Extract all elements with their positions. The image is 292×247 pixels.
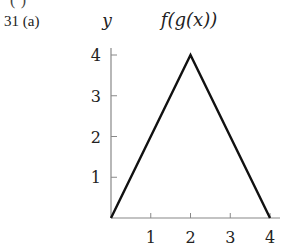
y-tick-label: 1 (91, 168, 101, 187)
y-axis-title: y (101, 10, 112, 30)
y-tick-label: 4 (91, 46, 101, 65)
chart-title: f(g(x)) (159, 9, 217, 30)
series-line (111, 55, 270, 218)
function-plot: 12341234yf(g(x)) (0, 0, 292, 247)
x-tick-label: 1 (146, 228, 156, 247)
y-tick-label: 2 (91, 128, 101, 147)
x-tick-label: 3 (225, 228, 235, 247)
y-tick-label: 3 (91, 87, 101, 106)
figure-page: (·) 31 (a) 12341234yf(g(x)) (0, 0, 292, 247)
x-tick-label: 2 (185, 228, 195, 247)
x-tick-label: 4 (265, 228, 275, 247)
